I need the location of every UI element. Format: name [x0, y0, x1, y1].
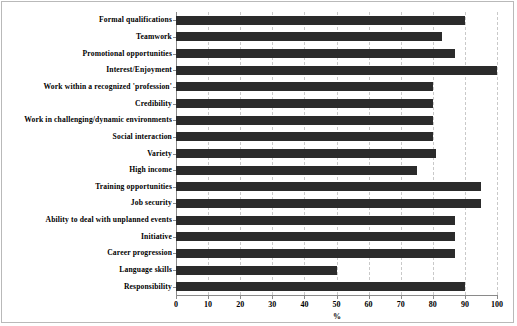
category-label: Social interaction [4, 133, 172, 141]
category-label: Job security [4, 199, 172, 207]
bar [176, 182, 481, 191]
x-axis-tick [369, 295, 370, 299]
x-axis-tick [337, 295, 338, 299]
bar [176, 49, 455, 58]
x-axis-tick [401, 295, 402, 299]
y-axis-tick [173, 237, 176, 238]
y-axis-tick [173, 270, 176, 271]
y-axis-tick [173, 20, 176, 21]
category-label: Ability to deal with unplanned events [4, 216, 172, 224]
gridline [497, 12, 498, 295]
category-label: Credibility [4, 100, 172, 108]
category-label: Career progression [4, 249, 172, 257]
x-axis-tick-label: 100 [491, 301, 503, 309]
bar [176, 249, 455, 258]
category-label: Promotional opportunities [4, 50, 172, 58]
category-labels: Formal qualificationsTeamworkPromotional… [4, 12, 172, 295]
category-label: Initiative [4, 233, 172, 241]
bar [176, 282, 465, 291]
y-axis-tick [173, 203, 176, 204]
bar [176, 32, 442, 41]
y-axis-tick [173, 120, 176, 121]
y-axis-tick [173, 187, 176, 188]
category-label: Language skills [4, 266, 172, 274]
bar [176, 99, 433, 108]
category-label: High income [4, 166, 172, 174]
x-axis-tick-label: 30 [268, 301, 276, 309]
y-axis-tick [173, 287, 176, 288]
y-axis-tick [173, 87, 176, 88]
x-axis-tick [176, 295, 177, 299]
bar [176, 232, 455, 241]
category-label: Work within a recognized 'profession' [4, 83, 172, 91]
y-axis-tick [173, 104, 176, 105]
bar [176, 149, 436, 158]
gridline [465, 12, 466, 295]
category-label: Teamwork [4, 33, 172, 41]
x-axis-tick [240, 295, 241, 299]
x-axis-tick [208, 295, 209, 299]
y-axis-tick [173, 70, 176, 71]
bar [176, 16, 465, 25]
y-axis-tick [173, 220, 176, 221]
x-axis-tick [304, 295, 305, 299]
category-label: Interest/Enjoyment [4, 66, 172, 74]
x-axis-tick-label: 40 [300, 301, 308, 309]
category-label: Variety [4, 150, 172, 158]
bar [176, 66, 497, 75]
bar [176, 132, 433, 141]
y-axis-tick [173, 54, 176, 55]
category-label: Responsibility [4, 283, 172, 291]
x-axis-tick [497, 295, 498, 299]
x-axis-tick-label: 70 [397, 301, 405, 309]
x-axis-tick-label: 80 [429, 301, 437, 309]
bar [176, 166, 417, 175]
x-axis-tick [433, 295, 434, 299]
x-axis-tick [272, 295, 273, 299]
category-label: Formal qualifications [4, 16, 172, 24]
bar [176, 82, 433, 91]
y-axis-tick [173, 253, 176, 254]
x-axis-tick [465, 295, 466, 299]
x-axis-tick-label: 90 [461, 301, 469, 309]
x-axis-tick-label: 60 [365, 301, 373, 309]
category-label: Work in challenging/dynamic environments [4, 116, 172, 124]
bar [176, 116, 433, 125]
plot-area [176, 12, 497, 295]
y-axis-tick [173, 137, 176, 138]
x-axis-tick-label: 20 [236, 301, 244, 309]
bar [176, 266, 337, 275]
x-axis-label: % [176, 313, 498, 321]
bar-chart: Formal qualificationsTeamworkPromotional… [0, 0, 517, 326]
y-axis-tick [173, 170, 176, 171]
y-axis-tick [173, 154, 176, 155]
bar [176, 216, 455, 225]
category-label: Training opportunities [4, 183, 172, 191]
y-axis-tick [173, 37, 176, 38]
x-axis-tick-label: 50 [333, 301, 341, 309]
bar [176, 199, 481, 208]
x-axis-tick-label: 0 [174, 301, 178, 309]
x-axis-tick-label: 10 [204, 301, 212, 309]
